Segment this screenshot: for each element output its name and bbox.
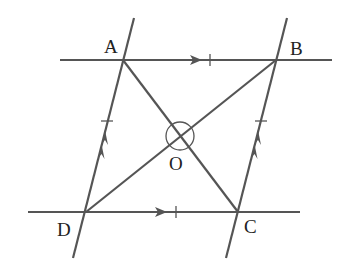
label-B: B: [290, 38, 303, 59]
label-C: C: [244, 216, 257, 237]
label-A: A: [104, 36, 118, 57]
diagonal-BD: [86, 60, 276, 212]
label-D: D: [57, 219, 71, 240]
label-O: O: [169, 153, 183, 174]
parallelogram-diagram: A B C D O: [0, 0, 347, 269]
